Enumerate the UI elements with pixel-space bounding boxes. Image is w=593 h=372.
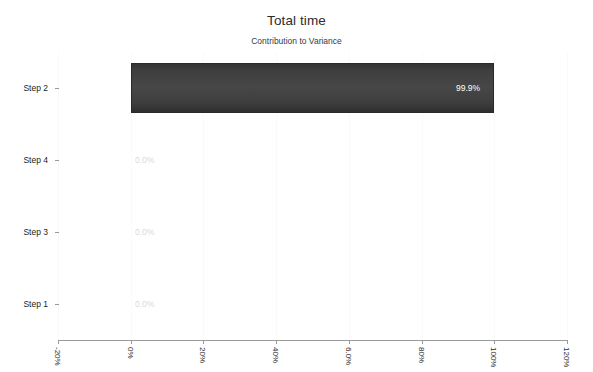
y-axis-tick <box>55 232 59 233</box>
y-axis-label-step-1: Step 1 <box>0 299 48 309</box>
x-axis-tick <box>494 340 495 344</box>
x-axis-label-3: 40% <box>271 347 280 363</box>
bar-value-label-step-2: 99.9% <box>456 83 480 93</box>
x-axis-line <box>58 340 567 341</box>
y-axis-tick <box>55 88 59 89</box>
bar-value-label-step-1: 0.0% <box>135 299 154 309</box>
x-axis-tick <box>349 340 350 344</box>
x-axis-label-5: 80% <box>417 347 426 363</box>
x-axis-tick <box>131 340 132 344</box>
x-axis-label-6: 100% <box>489 347 498 367</box>
bar-value-label-step-4: 0.0% <box>135 155 154 165</box>
gridline-7 <box>567 52 568 340</box>
x-axis-label-7: 120% <box>562 347 571 367</box>
bar-step-2 <box>131 63 494 113</box>
gridline-0 <box>58 52 59 340</box>
x-axis-label-4: 6.0% <box>344 347 353 365</box>
x-axis-label-1: 0% <box>126 347 135 359</box>
y-axis-label-step-4: Step 4 <box>0 155 48 165</box>
bar-value-label-step-3: 0.0% <box>135 227 154 237</box>
y-axis-tick <box>55 160 59 161</box>
y-axis-label-step-3: Step 3 <box>0 227 48 237</box>
chart-container: Total time Contribution to Variance 99.9… <box>0 0 593 372</box>
x-axis-tick <box>276 340 277 344</box>
x-axis-label-2: 20% <box>198 347 207 363</box>
chart-subtitle: Contribution to Variance <box>0 36 593 47</box>
gridline-6 <box>494 52 495 340</box>
x-axis-tick <box>567 340 568 344</box>
y-axis-label-step-2: Step 2 <box>0 83 48 93</box>
chart-title: Total time <box>0 13 593 29</box>
x-axis-tick <box>203 340 204 344</box>
y-axis-tick <box>55 304 59 305</box>
x-axis-label-0: -20% <box>53 347 62 366</box>
x-axis-tick <box>58 340 59 344</box>
x-axis-tick <box>422 340 423 344</box>
